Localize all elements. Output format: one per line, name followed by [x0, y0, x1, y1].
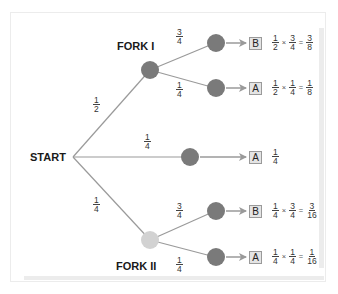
- denominator: 4: [176, 211, 183, 219]
- denominator: 8: [306, 88, 313, 96]
- operator: ×: [281, 38, 287, 47]
- fraction: 12: [272, 34, 279, 51]
- prob-start-fork1: 1 2: [93, 96, 100, 113]
- prob-fork2-top: 3 4: [176, 202, 183, 219]
- fraction: 14: [272, 148, 279, 165]
- fork2-label: FORK II: [116, 260, 156, 272]
- outcome-box-1: B: [249, 37, 262, 50]
- operator: =: [298, 83, 304, 92]
- denominator: 2: [272, 43, 279, 51]
- operator: =: [298, 38, 304, 47]
- fork1-label: FORK I: [117, 40, 154, 52]
- fraction: 14: [289, 248, 296, 265]
- denominator: 8: [306, 43, 313, 51]
- operator: =: [298, 206, 304, 215]
- node-fork2-bottom-leaf: [207, 248, 225, 266]
- outcome-expression-3: 14: [272, 148, 279, 165]
- operator: =: [298, 252, 304, 261]
- fraction: 12: [272, 79, 279, 96]
- fraction: 34: [289, 202, 296, 219]
- fraction: 18: [306, 79, 313, 96]
- denominator: 4: [144, 142, 151, 150]
- denominator: 4: [289, 211, 296, 219]
- prob-fork1-bottom: 1 4: [176, 81, 183, 98]
- outcome-box-5: A: [249, 251, 262, 264]
- denominator: 2: [93, 105, 100, 113]
- edge-fork1-top: [150, 43, 215, 70]
- edge-fork2-bottom: [150, 240, 215, 257]
- denominator: 4: [289, 43, 296, 51]
- node-fork2-top-leaf: [207, 202, 225, 220]
- denominator: 4: [289, 88, 296, 96]
- fraction: 316: [306, 202, 317, 219]
- outcome-expression-1: 12 × 34 = 38: [272, 34, 313, 51]
- node-fork1-top-leaf: [207, 34, 225, 52]
- node-middle: [181, 148, 199, 166]
- denominator: 2: [272, 88, 279, 96]
- outcome-box-2: A: [249, 82, 262, 95]
- denominator: 4: [272, 157, 279, 165]
- fraction: 14: [272, 202, 279, 219]
- denominator: 4: [272, 257, 279, 265]
- outcome-expression-5: 14 × 14 = 116: [272, 248, 318, 265]
- node-fork2: [141, 231, 159, 249]
- denominator: 4: [93, 205, 100, 213]
- denominator: 16: [306, 257, 317, 265]
- denominator: 4: [272, 211, 279, 219]
- operator: ×: [281, 83, 287, 92]
- denominator: 16: [306, 211, 317, 219]
- start-label: START: [30, 151, 66, 163]
- outcome-expression-2: 12 × 14 = 18: [272, 79, 313, 96]
- prob-start-fork2: 1 4: [93, 196, 100, 213]
- fraction: 34: [289, 34, 296, 51]
- prob-fork2-bottom: 1 4: [176, 256, 183, 273]
- operator: ×: [281, 252, 287, 261]
- node-fork1: [141, 61, 159, 79]
- fraction: 38: [306, 34, 313, 51]
- outcome-expression-4: 14 × 34 = 316: [272, 202, 318, 219]
- edge-start-fork1: [73, 70, 150, 157]
- denominator: 4: [176, 37, 183, 45]
- prob-fork1-top: 3 4: [176, 28, 183, 45]
- fraction: 14: [272, 248, 279, 265]
- prob-start-middle: 1 4: [144, 133, 151, 150]
- outcome-box-4: B: [249, 205, 262, 218]
- node-fork1-bottom-leaf: [207, 79, 225, 97]
- edge-start-fork2: [73, 157, 150, 240]
- outcome-box-3: A: [249, 151, 262, 164]
- denominator: 4: [176, 90, 183, 98]
- denominator: 4: [176, 265, 183, 273]
- fraction: 14: [289, 79, 296, 96]
- denominator: 4: [289, 257, 296, 265]
- fraction: 116: [306, 248, 317, 265]
- operator: ×: [281, 206, 287, 215]
